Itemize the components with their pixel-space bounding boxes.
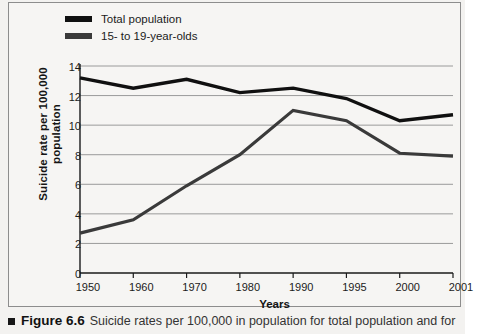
y-axis-tick-label: 0 <box>57 269 81 280</box>
y-axis-tick-label: 6 <box>57 180 81 191</box>
x-axis-tick-label: 2001 <box>436 281 478 293</box>
x-axis-tick-label: 1995 <box>329 281 379 293</box>
legend-label-total-population: Total population <box>101 13 182 25</box>
legend-item-total-population: Total population <box>65 11 295 27</box>
y-axis-tick-label: 12 <box>57 92 81 103</box>
axis-lines <box>80 64 453 273</box>
legend-item-teens: 15- to 19-year-olds <box>65 28 295 44</box>
x-axis-tick-marks <box>80 273 453 278</box>
y-axis-title-line1: Suicide rate per 100,000 <box>37 67 49 200</box>
x-axis-tick-label: 1970 <box>170 281 220 293</box>
chart-legend: Total population 15- to 19-year-olds <box>65 11 295 45</box>
figure-caption: Figure 6.6Suicide rates per 100,000 in p… <box>8 313 463 329</box>
series-line-total-population <box>80 78 453 121</box>
x-axis-tick-label: 1950 <box>63 281 113 293</box>
y-axis-tick-label: 4 <box>57 210 81 221</box>
y-axis-tick-label: 8 <box>57 151 81 162</box>
x-axis-tick-label: 2000 <box>383 281 433 293</box>
x-axis-title: Years <box>88 298 461 310</box>
x-axis-tick-label: 1990 <box>276 281 326 293</box>
chart-panel: Total population 15- to 19-year-olds Sui… <box>8 2 461 307</box>
x-axis-tick-label: 1980 <box>223 281 273 293</box>
y-axis-tick-label: 10 <box>57 121 81 132</box>
gridlines <box>80 66 453 243</box>
data-series-layer <box>80 78 453 233</box>
y-axis-tick-label: 14 <box>57 62 81 73</box>
y-axis-tick-label: 2 <box>57 239 81 250</box>
x-axis-tick-label: 1960 <box>116 281 166 293</box>
figure-number: Figure 6.6 <box>21 313 85 328</box>
legend-label-teens: 15- to 19-year-olds <box>101 30 198 42</box>
series-line-teens <box>80 110 453 233</box>
square-bullet-icon <box>8 318 15 325</box>
x-axis-tick-labels: 19501960197019801990199520002001 <box>9 281 474 297</box>
figure-caption-text: Suicide rates per 100,000 in population … <box>90 314 456 328</box>
